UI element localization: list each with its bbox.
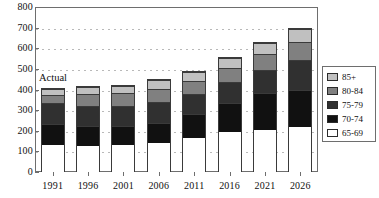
y-axis-tick-mark <box>35 172 39 173</box>
legend-swatch-icon <box>327 101 338 109</box>
bar-segment-75-79 <box>148 102 170 122</box>
bar-segment-65-69 <box>183 138 205 172</box>
x-axis-tick-mark <box>194 172 195 176</box>
legend-item-65-69: 65-69 <box>327 126 372 140</box>
bar-segment-85+ <box>254 43 276 54</box>
x-axis-tick-label: 2001 <box>103 180 143 191</box>
bar-segment-80-84 <box>42 95 64 104</box>
x-axis-tick-mark <box>53 172 54 176</box>
y-axis-tick-label: 100 <box>0 146 33 156</box>
legend-label: 70-74 <box>342 115 363 124</box>
bar-segment-85+ <box>289 29 311 42</box>
x-axis-tick-label: 1991 <box>33 180 73 191</box>
bar-segment-80-84 <box>77 94 99 106</box>
bar-segment-75-79 <box>183 94 205 114</box>
y-axis-tick-mark <box>35 151 39 152</box>
y-axis-tick-mark <box>35 28 39 29</box>
x-axis-tick-label: 2006 <box>139 180 179 191</box>
bar-segment-65-69 <box>219 132 241 172</box>
x-axis-tick-mark <box>88 172 89 176</box>
y-axis-tick-mark <box>35 110 39 111</box>
bar-segment-85+ <box>219 58 241 69</box>
y-axis-tick-label: 800 <box>0 2 33 12</box>
bar-segment-65-69 <box>254 130 276 172</box>
bar-1996 <box>76 86 100 172</box>
legend-swatch-icon <box>327 87 338 95</box>
bar-segment-70-74 <box>42 124 64 145</box>
stacked-bar-chart: 0100200300400500600700800 Actual 85+80-8… <box>0 0 379 198</box>
bar-segment-70-74 <box>112 126 134 146</box>
legend-label: 85+ <box>342 73 356 82</box>
legend-swatch-icon <box>327 73 338 81</box>
bar-segment-75-79 <box>112 106 134 126</box>
bar-segment-65-69 <box>148 143 170 172</box>
y-axis: 0100200300400500600700800 <box>0 0 33 198</box>
legend-label: 65-69 <box>342 129 363 138</box>
bar-2021 <box>253 42 277 172</box>
bar-2006 <box>147 79 171 172</box>
bar-segment-65-69 <box>112 145 134 172</box>
y-axis-tick-mark <box>35 48 39 49</box>
bar-segment-80-84 <box>183 81 205 94</box>
bar-segment-65-69 <box>42 145 64 172</box>
annotation-actual: Actual <box>39 72 67 83</box>
bar-segment-80-84 <box>148 89 170 103</box>
bar-segment-85+ <box>148 80 170 88</box>
y-axis-tick-label: 600 <box>0 43 33 53</box>
legend-item-80-84: 80-84 <box>327 84 372 98</box>
y-axis-tick-mark <box>35 7 39 8</box>
legend-item-85+: 85+ <box>327 70 372 84</box>
x-axis-tick-mark <box>159 172 160 176</box>
y-axis-tick-label: 500 <box>0 64 33 74</box>
y-axis-tick-label: 300 <box>0 105 33 115</box>
bar-segment-75-79 <box>289 60 311 90</box>
bar-segment-70-74 <box>77 126 99 146</box>
x-axis-tick-label: 2011 <box>174 180 214 191</box>
bar-segment-70-74 <box>254 93 276 130</box>
legend-swatch-icon <box>327 115 338 123</box>
bar-1991 <box>41 88 65 172</box>
bar-segment-75-79 <box>254 70 276 93</box>
x-axis-tick-label: 1996 <box>68 180 108 191</box>
bar-2026 <box>288 28 312 172</box>
x-axis-tick-label: 2016 <box>210 180 250 191</box>
bar-segment-70-74 <box>183 114 205 138</box>
legend-item-70-74: 70-74 <box>327 112 372 126</box>
legend-swatch-icon <box>327 129 338 137</box>
bar-segment-75-79 <box>42 103 64 123</box>
bar-segment-85+ <box>112 86 134 93</box>
x-axis-tick-mark <box>265 172 266 176</box>
bar-segment-70-74 <box>148 123 170 143</box>
y-axis-tick-label: 400 <box>0 85 33 95</box>
bar-segment-80-84 <box>219 68 241 82</box>
legend-item-75-79: 75-79 <box>327 98 372 112</box>
bar-2001 <box>111 85 135 172</box>
x-axis-tick-label: 2021 <box>245 180 285 191</box>
bar-segment-80-84 <box>289 42 311 60</box>
x-axis-tick-mark <box>123 172 124 176</box>
legend: 85+80-8475-7970-7465-69 <box>322 66 376 142</box>
x-axis-tick-mark <box>230 172 231 176</box>
bar-2011 <box>182 71 206 172</box>
bar-2016 <box>218 57 242 173</box>
legend-label: 80-84 <box>342 87 363 96</box>
y-axis-tick-mark <box>35 69 39 70</box>
bar-segment-80-84 <box>254 54 276 70</box>
bar-segment-80-84 <box>112 93 134 106</box>
bar-segment-85+ <box>183 72 205 81</box>
bar-segment-75-79 <box>77 106 99 126</box>
y-axis-tick-label: 700 <box>0 23 33 33</box>
bar-segment-65-69 <box>77 146 99 172</box>
x-axis-tick-mark <box>300 172 301 176</box>
bar-segment-75-79 <box>219 82 241 103</box>
bar-segment-70-74 <box>289 90 311 127</box>
legend-label: 75-79 <box>342 101 363 110</box>
x-axis-tick-label: 2026 <box>280 180 320 191</box>
y-axis-tick-mark <box>35 131 39 132</box>
y-axis-tick-label: 0 <box>0 167 33 177</box>
y-axis-tick-label: 200 <box>0 126 33 136</box>
bar-segment-65-69 <box>289 127 311 172</box>
bar-segment-70-74 <box>219 103 241 132</box>
bars-layer <box>35 7 318 172</box>
y-axis-tick-mark <box>35 90 39 91</box>
